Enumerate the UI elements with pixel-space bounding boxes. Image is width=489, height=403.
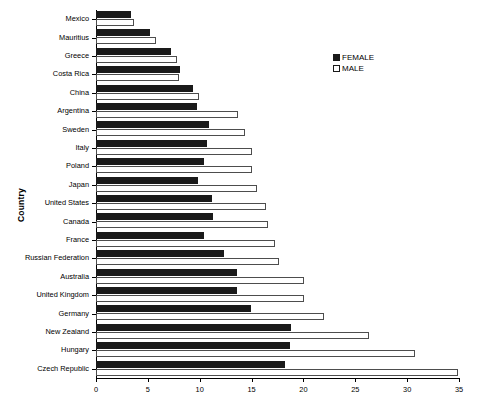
category-label: Greece: [65, 52, 89, 59]
bar-row: Costa Rica: [96, 65, 459, 83]
bar-male: [96, 74, 179, 81]
bar-male: [96, 350, 415, 357]
bar-female: [96, 213, 213, 220]
bar-female: [96, 195, 212, 202]
bar-female: [96, 140, 207, 147]
category-label: Russian Federation: [25, 254, 89, 261]
bar-male: [96, 258, 279, 265]
bar-female: [96, 177, 198, 184]
category-label: Japan: [69, 181, 89, 188]
x-axis-tick: [459, 378, 460, 382]
legend-item-male: MALE: [333, 63, 374, 74]
bar-female: [96, 324, 291, 331]
category-label: China: [70, 89, 89, 96]
category-label: Mexico: [66, 15, 89, 22]
x-axis-tick-label: 20: [299, 385, 307, 394]
bar-row: Russian Federation: [96, 249, 459, 267]
category-label: Czech Republic: [37, 365, 89, 372]
bar-row: United Kingdom: [96, 286, 459, 304]
bar-female: [96, 269, 237, 276]
bar-row: Canada: [96, 212, 459, 230]
bar-male: [96, 166, 252, 173]
category-label: France: [66, 236, 89, 243]
category-label: Italy: [75, 144, 89, 151]
x-axis-tick: [407, 378, 408, 382]
bar-chart: Country MexicoMauritiusGreeceCosta RicaC…: [0, 0, 489, 403]
x-axis-tick-label: 10: [196, 385, 204, 394]
bar-row: China: [96, 84, 459, 102]
bar-female: [96, 66, 180, 73]
category-label: Canada: [63, 218, 89, 225]
bar-row: Hungary: [96, 341, 459, 359]
legend-label-male: MALE: [342, 63, 364, 74]
category-label: New Zealand: [45, 328, 89, 335]
x-axis-tick-label: 0: [94, 385, 98, 394]
bar-row: Argentina: [96, 102, 459, 120]
bar-female: [96, 158, 204, 165]
bar-male: [96, 313, 324, 320]
x-axis-tick: [355, 378, 356, 382]
bar-male: [96, 240, 275, 247]
category-label: Hungary: [61, 346, 89, 353]
bar-row: Czech Republic: [96, 360, 459, 378]
category-label: Mauritius: [59, 34, 89, 41]
bar-male: [96, 148, 252, 155]
bar-male: [96, 185, 257, 192]
bar-row: Mexico: [96, 10, 459, 28]
bar-row: Germany: [96, 304, 459, 322]
y-axis-title-text: Country: [16, 142, 26, 222]
bar-male: [96, 129, 245, 136]
bar-male: [96, 332, 369, 339]
x-axis-tick-label: 25: [351, 385, 359, 394]
bar-female: [96, 287, 237, 294]
category-label: Australia: [60, 273, 89, 280]
category-label: Germany: [59, 310, 89, 317]
x-axis-tick: [200, 378, 201, 382]
category-label: United Kingdom: [36, 291, 89, 298]
legend-label-female: FEMALE: [342, 52, 374, 63]
x-axis-tick: [252, 378, 253, 382]
category-label: Costa Rica: [53, 70, 89, 77]
x-axis-tick-label: 5: [146, 385, 150, 394]
x-axis-tick-label: 15: [247, 385, 255, 394]
bar-male: [96, 19, 134, 26]
bar-female: [96, 103, 197, 110]
bar-male: [96, 221, 268, 228]
bar-row: Japan: [96, 176, 459, 194]
bar-male: [96, 277, 304, 284]
x-axis-tick-label: 35: [455, 385, 463, 394]
bar-male: [96, 295, 304, 302]
bar-female: [96, 342, 290, 349]
bar-female: [96, 232, 204, 239]
x-axis-tick-label: 30: [403, 385, 411, 394]
bar-male: [96, 56, 177, 63]
bar-row: Mauritius: [96, 28, 459, 46]
bar-male: [96, 93, 199, 100]
category-label: Sweden: [62, 126, 89, 133]
category-label: Argentina: [57, 107, 89, 114]
bar-female: [96, 48, 171, 55]
bar-female: [96, 250, 224, 257]
bar-row: United States: [96, 194, 459, 212]
legend-swatch-female-icon: [333, 54, 340, 61]
bar-row: Poland: [96, 157, 459, 175]
bar-female: [96, 305, 251, 312]
bar-male: [96, 369, 458, 376]
bar-row: France: [96, 231, 459, 249]
legend: FEMALE MALE: [333, 52, 374, 74]
x-axis-line: [96, 378, 459, 379]
bar-row: Sweden: [96, 120, 459, 138]
bar-female: [96, 29, 150, 36]
bar-row: Australia: [96, 268, 459, 286]
bar-male: [96, 37, 156, 44]
bar-row: Greece: [96, 47, 459, 65]
x-axis-tick: [303, 378, 304, 382]
bar-female: [96, 11, 131, 18]
bar-male: [96, 111, 238, 118]
category-label: Poland: [66, 162, 89, 169]
bar-row: Italy: [96, 139, 459, 157]
x-axis-tick: [148, 378, 149, 382]
legend-item-female: FEMALE: [333, 52, 374, 63]
bar-female: [96, 85, 193, 92]
x-axis-tick: [96, 378, 97, 382]
